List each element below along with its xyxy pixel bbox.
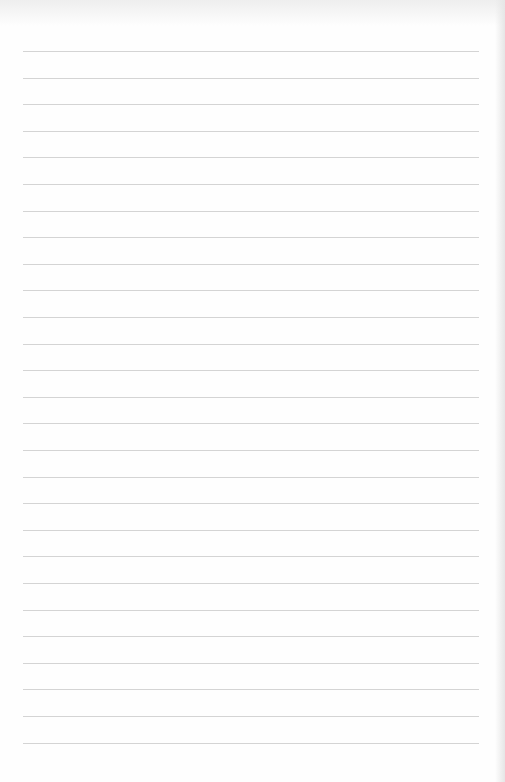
ruled-line [23, 556, 479, 557]
ruled-line [23, 743, 479, 744]
ruled-line [23, 530, 479, 531]
right-edge-shadow [495, 0, 505, 782]
ruled-line [23, 317, 479, 318]
ruled-line [23, 78, 479, 79]
ruled-line [23, 104, 479, 105]
ruled-line [23, 131, 479, 132]
ruled-line [23, 423, 479, 424]
ruled-line [23, 610, 479, 611]
ruled-line [23, 689, 479, 690]
ruled-line [23, 477, 479, 478]
ruled-line [23, 237, 479, 238]
ruled-line [23, 397, 479, 398]
ruled-line [23, 663, 479, 664]
ruled-line [23, 370, 479, 371]
ruled-line [23, 184, 479, 185]
ruled-line [23, 503, 479, 504]
ruled-line [23, 264, 479, 265]
ruled-line [23, 716, 479, 717]
ruled-line [23, 211, 479, 212]
ruled-line [23, 344, 479, 345]
ruled-line [23, 51, 479, 52]
lined-paper-page [0, 0, 505, 782]
ruled-line [23, 450, 479, 451]
ruled-line [23, 290, 479, 291]
ruled-line [23, 157, 479, 158]
top-edge-shadow [0, 0, 505, 26]
ruled-line [23, 636, 479, 637]
ruled-line [23, 583, 479, 584]
